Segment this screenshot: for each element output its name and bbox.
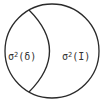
argument: (I) [72, 51, 90, 62]
argument: (δ) [18, 51, 36, 62]
region-label-right: σ2(I) [62, 52, 90, 62]
region-label-left: σ2(δ) [8, 52, 36, 62]
